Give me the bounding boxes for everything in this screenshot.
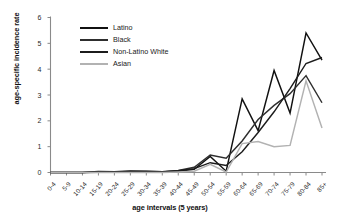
legend-label: Non-Latino White xyxy=(113,46,169,57)
legend-line-swatch xyxy=(80,51,108,53)
series-line xyxy=(51,33,323,173)
legend-line-swatch xyxy=(80,39,108,41)
series-line xyxy=(51,81,323,173)
legend-line-swatch xyxy=(80,27,108,29)
legend-label: Asian xyxy=(113,58,131,69)
legend-label: Black xyxy=(113,34,131,45)
series-lines xyxy=(51,33,323,173)
plot-area xyxy=(0,0,340,224)
legend-label: Latino xyxy=(113,22,133,33)
chart-figure: age-specific incidence rate age interval… xyxy=(0,0,340,224)
series-line xyxy=(51,58,323,173)
legend-line-swatch xyxy=(80,63,108,65)
